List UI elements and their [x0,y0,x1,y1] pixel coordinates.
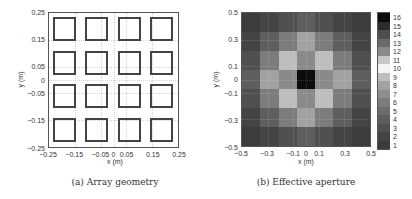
heatmap-cell [333,13,352,32]
colorbar-tick-label: 2 [393,133,397,140]
array-element [150,118,173,142]
y-tick-label: 0.3 [208,36,238,43]
heatmap-cell [279,108,297,127]
colorbar-tick-label: 10 [393,65,401,72]
colorbar-segment [378,141,390,149]
heatmap-cell [333,127,352,146]
heatmap-cell [315,127,333,146]
colorbar-tick-label: 8 [393,82,397,89]
heatmap-cell [315,108,333,127]
colorbar-tick-label: 1 [393,142,397,149]
heatmap-cell [315,13,333,32]
array-element [118,17,141,41]
caption-a: (a) Array geometry [55,177,175,187]
heatmap-cell [279,32,297,51]
colorbar-tick-label: 6 [393,99,397,106]
array-element [53,118,76,142]
y-tick-label: −0.1 [208,90,238,97]
colorbar-segment [378,39,390,47]
array-element [150,51,173,75]
heatmap-cell [260,32,279,51]
colorbar-tick-label: 11 [393,57,400,64]
colorbar-segment [378,132,390,141]
colorbar-tick-label: 4 [393,116,397,123]
array-element [118,118,141,142]
y-tick-label: 0.1 [208,63,238,70]
colorbar-segment [378,81,390,90]
heatmap-cell [242,127,260,146]
y-tick-label: 0.5 [208,9,238,16]
heatmap-cell [352,13,370,32]
grid-line [49,80,178,81]
heatmap-cell [242,13,260,32]
x-tick-label: −0.5 [229,150,253,157]
colorbar-segment [378,47,390,56]
array-element [85,51,108,75]
panel-array-geometry: 0.250.150.050−0.05−0.15−0.25 −0.25−0.15−… [0,0,200,199]
heatmap-cell [352,108,370,127]
array-element [53,17,76,41]
y-tick-label: −0.3 [208,117,238,124]
y-tick-label: −0.15 [15,117,45,124]
colorbar-tick-label: 16 [393,14,401,21]
colorbar-tick-label: 14 [393,31,401,38]
x-tick-label: −0.15 [62,151,86,158]
grid-line [242,66,370,67]
heatmap-cell [242,32,260,51]
x-axis-label: x (m) [103,158,127,165]
x-tick-label: 0.05 [115,151,139,158]
y-tick-label: 0.15 [15,36,45,43]
colorbar-segment [378,107,390,115]
y-tick-label: 0.05 [15,63,45,70]
colorbar-segment [378,56,390,64]
heatmap-cell [333,32,352,51]
heatmap-cell [315,32,333,51]
heatmap-cell [242,108,260,127]
colorbar-tick-label: 15 [393,23,401,30]
colorbar-segment [378,73,390,81]
y-axis-label: y (m) [17,72,24,88]
colorbar-tick-label: 3 [393,125,397,132]
array-element [85,17,108,41]
colorbar-segment [378,98,390,107]
panel-effective-aperture: 16151413121110987654321 0.50.30.10−0.1−0… [200,0,412,199]
colorbar-segment [378,30,390,39]
x-tick-label: 0.25 [167,151,191,158]
effective-aperture-heatmap [241,12,371,147]
colorbar [377,12,390,150]
colorbar-tick-label: 13 [393,40,401,47]
y-tick-label: −0.05 [15,90,45,97]
x-tick-label: 0.5 [359,150,383,157]
x-tick-label: −0.25 [36,151,60,158]
array-element [53,51,76,75]
x-tick-label: 0.1 [307,150,331,157]
heatmap-cell [333,108,352,127]
heatmap-cell [352,127,370,146]
array-element [150,17,173,41]
array-element [118,84,141,108]
heatmap-cell [352,32,370,51]
array-element [150,84,173,108]
grid-line [242,119,370,120]
y-tick-label: 0.25 [15,9,45,16]
colorbar-tick-label: 7 [393,91,397,98]
heatmap-cell [260,127,279,146]
heatmap-cell [279,127,297,146]
colorbar-tick-label: 12 [393,48,401,55]
colorbar-segment [378,124,390,132]
colorbar-tick-label: 5 [393,108,397,115]
grid-line [242,93,370,94]
array-element [85,118,108,142]
colorbar-segment [378,13,390,22]
heatmap-cell [260,108,279,127]
x-tick-label: 0.15 [141,151,165,158]
array-geometry-plot [48,12,179,148]
colorbar-segment [378,64,390,73]
heatmap-cell [279,13,297,32]
y-axis-label: y (m) [212,72,219,88]
array-element [53,84,76,108]
colorbar-segment [378,22,390,30]
caption-b: (b) Effective aperture [246,177,366,187]
x-axis-label: x (m) [294,158,318,165]
array-element [118,51,141,75]
